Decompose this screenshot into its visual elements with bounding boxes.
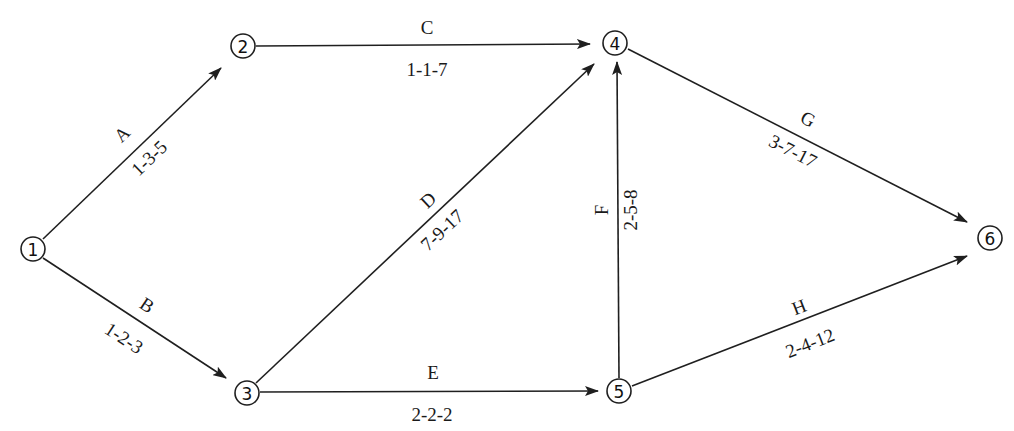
- activity-label: H: [789, 295, 810, 320]
- time-estimates-label: 3-7-17: [766, 130, 821, 172]
- edge-activity-a: [43, 68, 221, 239]
- edge-arrow: [260, 391, 598, 392]
- node-3: 3: [235, 381, 259, 405]
- node-number: 2: [238, 37, 249, 57]
- edge-arrow: [628, 49, 967, 222]
- node-number: 4: [610, 34, 621, 54]
- edge-arrow: [256, 64, 594, 383]
- node-1: 1: [21, 237, 45, 261]
- activity-label: A: [110, 121, 135, 146]
- edge-activity-c: [256, 44, 590, 46]
- network-diagram: A1-3-5B1-2-3C1-1-7D7-9-17E2-2-2F2-5-8G3-…: [0, 0, 1014, 431]
- edge-arrow: [43, 68, 221, 239]
- node-2: 2: [231, 34, 255, 58]
- time-estimates-label: 1-2-3: [101, 318, 147, 358]
- edge-activity-b: [43, 258, 226, 378]
- edge-activity-g: [628, 49, 967, 222]
- node-4: 4: [603, 31, 627, 55]
- activity-label: D: [416, 188, 440, 213]
- edge-arrow: [256, 44, 590, 46]
- node-5: 5: [607, 379, 631, 403]
- node-number: 1: [28, 240, 39, 260]
- activity-label: G: [797, 107, 819, 132]
- node-6: 6: [978, 226, 1002, 250]
- activity-label: B: [136, 293, 158, 318]
- edge-arrow: [632, 256, 967, 386]
- activity-label: E: [427, 362, 439, 383]
- node-number: 6: [985, 229, 996, 249]
- edge-arrow: [43, 258, 226, 378]
- time-estimates-label: 2-4-12: [783, 324, 838, 362]
- time-estimates-label: 2-5-8: [620, 189, 641, 230]
- time-estimates-label: 1-1-7: [406, 59, 447, 80]
- activity-label: F: [591, 205, 612, 216]
- time-estimates-label: 1-3-5: [127, 136, 171, 180]
- edge-activity-d: [256, 64, 594, 383]
- nodes-layer: 123456: [21, 31, 1002, 405]
- activity-label: C: [421, 17, 434, 38]
- edge-activity-e: [260, 391, 598, 392]
- edge-activity-h: [632, 256, 967, 386]
- node-number: 5: [614, 382, 625, 402]
- time-estimates-label: 2-2-2: [411, 404, 452, 425]
- node-number: 3: [242, 384, 253, 404]
- time-estimates-label: 7-9-17: [416, 205, 467, 255]
